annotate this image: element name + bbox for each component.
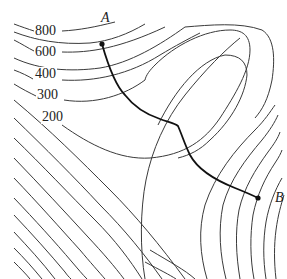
contour-right-6 [275,195,285,279]
contour-lines [0,0,287,279]
contour-diag-9 [14,248,42,279]
contour-label-200: 200 [41,110,64,124]
contour-map-figure: 800 600 400 300 200 A B [0,0,287,279]
contour-diag-2 [14,118,162,279]
contour-diag-4 [14,158,124,279]
contour-diag-5 [14,178,105,279]
contour-diag-6 [14,198,87,279]
route-a-to-b [102,44,258,198]
contour-label-300: 300 [36,88,59,102]
contour-right-4 [251,150,282,279]
contour-300 [14,80,145,101]
contour-diag-8 [14,232,55,279]
contour-label-600: 600 [34,45,57,59]
point-a-marker [99,41,104,46]
contour-inner [158,55,247,158]
point-b-label: B [275,191,284,205]
contour-right-3 [236,132,280,279]
point-b-marker [255,195,260,200]
contour-200 [62,30,250,158]
contour-diag-7 [14,215,71,279]
contour-diag-1 [14,100,185,279]
point-a-label: A [101,11,110,25]
contour-800 [14,22,115,31]
contour-label-400: 400 [34,67,57,81]
contour-right-2 [220,115,278,279]
contour-label-800: 800 [34,24,57,38]
contour-diag-10 [14,262,30,279]
contour-lower-1 [150,250,195,279]
